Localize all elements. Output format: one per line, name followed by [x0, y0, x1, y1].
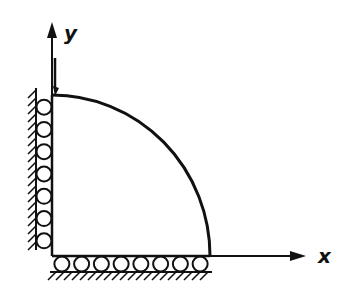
hatch-line — [136, 272, 144, 280]
y-axis-label: y — [64, 21, 78, 45]
hatch-line — [28, 178, 36, 186]
diagram-canvas: y x — [0, 0, 346, 296]
hatch-line — [160, 272, 168, 280]
hatch-line — [64, 272, 72, 280]
hatch-line — [28, 106, 36, 114]
bottom-wall-rollers — [54, 257, 207, 272]
left-wall-rollers — [37, 100, 52, 249]
roller — [114, 257, 129, 272]
roller — [133, 257, 148, 272]
hatch-line — [28, 146, 36, 154]
hatch-line — [96, 272, 104, 280]
roller — [94, 257, 109, 272]
hatch-line — [28, 98, 36, 106]
roller — [37, 233, 52, 248]
hatch-line — [144, 272, 152, 280]
hatch-line — [28, 202, 36, 210]
hatch-line — [56, 272, 64, 280]
hatch-line — [112, 272, 120, 280]
quarter-circle-arc — [52, 95, 210, 256]
hatch-line — [28, 210, 36, 218]
x-axis-label: x — [317, 244, 332, 268]
roller — [74, 257, 89, 272]
hatch-line — [28, 154, 36, 162]
hatch-line — [28, 242, 36, 250]
hatch-line — [104, 272, 112, 280]
hatch-line — [168, 272, 176, 280]
left-wall-hatching — [28, 90, 36, 250]
y-axis-arrowhead — [47, 22, 57, 38]
roller — [37, 100, 52, 115]
hatch-line — [28, 186, 36, 194]
roller — [153, 257, 168, 272]
roller — [37, 144, 52, 159]
bottom-wall-hatching — [48, 272, 208, 280]
hatch-line — [48, 272, 56, 280]
hatch-line — [28, 226, 36, 234]
hatch-line — [28, 122, 36, 130]
x-axis-arrowhead — [290, 251, 306, 261]
hatch-line — [28, 194, 36, 202]
roller — [37, 167, 52, 182]
hatch-line — [28, 138, 36, 146]
hatch-line — [192, 272, 200, 280]
hatch-line — [176, 272, 184, 280]
hatch-line — [28, 162, 36, 170]
hatch-line — [28, 170, 36, 178]
hatch-line — [28, 90, 36, 98]
roller — [173, 257, 188, 272]
hatch-line — [80, 272, 88, 280]
hatch-line — [72, 272, 80, 280]
hatch-line — [200, 272, 208, 280]
hatch-line — [128, 272, 136, 280]
hatch-line — [184, 272, 192, 280]
roller — [193, 257, 208, 272]
hatch-line — [152, 272, 160, 280]
hatch-line — [88, 272, 96, 280]
hatch-line — [28, 218, 36, 226]
hatch-line — [28, 114, 36, 122]
roller — [54, 257, 69, 272]
hatch-line — [28, 234, 36, 242]
hatch-line — [28, 130, 36, 138]
roller — [37, 189, 52, 204]
roller — [37, 122, 52, 137]
roller — [37, 211, 52, 226]
hatch-line — [120, 272, 128, 280]
